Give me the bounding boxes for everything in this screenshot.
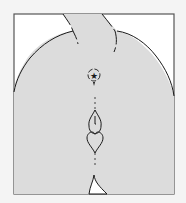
diagram-figure: ★ [0,0,186,203]
star-icon: ★ [90,71,98,81]
